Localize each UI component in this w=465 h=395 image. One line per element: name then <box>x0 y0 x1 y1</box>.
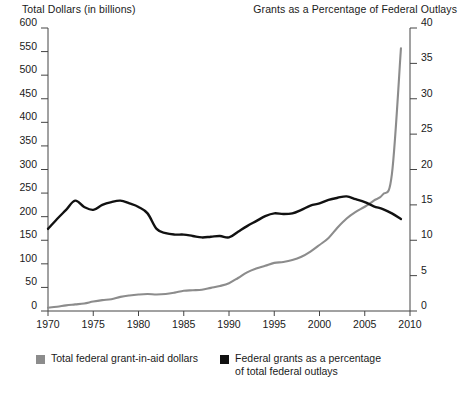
legend-swatch-dollars <box>36 355 45 364</box>
x-tick-2005: 2005 <box>345 318 385 330</box>
chart-legend: Total federal grant-in-aid dollarsFedera… <box>0 352 465 377</box>
left-tick-150: 150 <box>7 228 37 240</box>
legend-label-0: Total federal grant-in-aid dollars <box>51 352 198 365</box>
legend-label-1: Federal grants as a percentage of total … <box>235 352 385 377</box>
right-tick-10: 10 <box>421 228 451 240</box>
axis-lines <box>48 28 410 311</box>
plot-area <box>0 0 465 395</box>
left-tick-300: 300 <box>7 158 37 170</box>
right-tick-20: 20 <box>421 158 451 170</box>
left-tick-450: 450 <box>7 87 37 99</box>
legend-item-1: Federal grants as a percentage of total … <box>220 352 385 377</box>
right-tick-25: 25 <box>421 122 451 134</box>
x-tick-2010: 2010 <box>390 318 430 330</box>
left-tick-200: 200 <box>7 205 37 217</box>
left-tick-50: 50 <box>7 275 37 287</box>
legend-item-0: Total federal grant-in-aid dollars <box>36 352 198 377</box>
tick-marks <box>41 28 417 316</box>
x-tick-1985: 1985 <box>164 318 204 330</box>
left-tick-250: 250 <box>7 181 37 193</box>
left-tick-600: 600 <box>7 16 37 28</box>
left-tick-350: 350 <box>7 134 37 146</box>
x-tick-1970: 1970 <box>28 318 68 330</box>
left-tick-550: 550 <box>7 40 37 52</box>
x-tick-1975: 1975 <box>73 318 113 330</box>
legend-swatch-percentage <box>220 355 229 364</box>
left-tick-100: 100 <box>7 252 37 264</box>
x-tick-1995: 1995 <box>254 318 294 330</box>
left-tick-500: 500 <box>7 63 37 75</box>
left-tick-0: 0 <box>7 299 37 311</box>
x-tick-1990: 1990 <box>209 318 249 330</box>
right-tick-35: 35 <box>421 51 451 63</box>
right-tick-15: 15 <box>421 193 451 205</box>
right-tick-40: 40 <box>421 16 451 28</box>
right-tick-5: 5 <box>421 264 451 276</box>
x-tick-1980: 1980 <box>119 318 159 330</box>
series-line-total-dollars <box>48 48 401 307</box>
right-tick-0: 0 <box>421 299 451 311</box>
left-tick-400: 400 <box>7 110 37 122</box>
chart-container: Total Dollars (in billions) Grants as a … <box>0 0 465 395</box>
x-tick-2000: 2000 <box>300 318 340 330</box>
right-tick-30: 30 <box>421 87 451 99</box>
